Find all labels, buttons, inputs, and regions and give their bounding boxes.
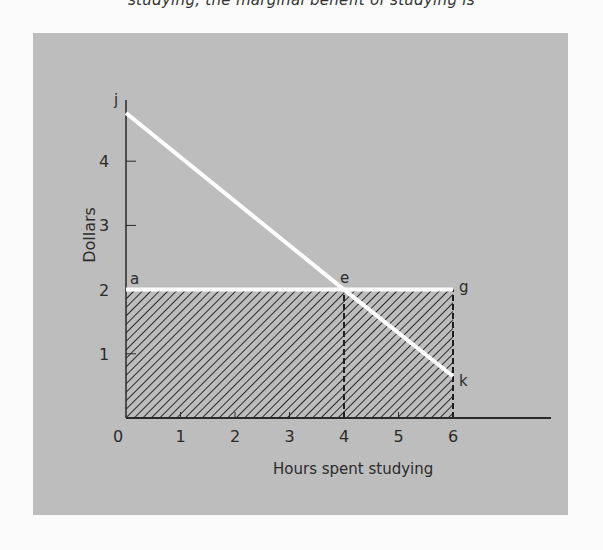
y-tick-label: 4 [99, 152, 109, 171]
point-label-a: a [130, 270, 139, 288]
x-tick-label: 4 [339, 427, 349, 446]
x-tick-label: 1 [175, 427, 185, 446]
point-label-k: k [459, 372, 468, 390]
point-label-j: j [113, 91, 118, 109]
y-tick-label: 1 [99, 345, 109, 364]
point-label-e: e [340, 269, 349, 287]
y-tick-label: 2 [99, 281, 109, 300]
point-label-g: g [459, 278, 469, 296]
x-tick-label: 5 [393, 427, 403, 446]
x-tick-label: 3 [284, 427, 294, 446]
x-tick-label: 0 [113, 427, 123, 446]
x-tick-label: 2 [230, 427, 240, 446]
chart: 12340123456jaegkHours spent studyingDoll… [0, 0, 603, 550]
y-tick-label: 3 [99, 216, 109, 235]
x-axis-title: Hours spent studying [273, 460, 433, 478]
y-axis-title: Dollars [80, 207, 99, 263]
shaded-area [126, 290, 453, 418]
x-tick-label: 6 [448, 427, 458, 446]
